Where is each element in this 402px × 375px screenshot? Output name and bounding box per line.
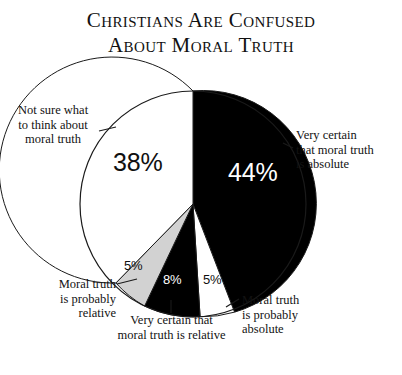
pie-label-very-certain-absolute-line-2: that moral truth	[296, 143, 374, 158]
slice-value-very-certain-absolute: 44%	[228, 158, 277, 187]
slice-value-not-sure: 38%	[113, 148, 162, 177]
pie-label-very-certain-relative: Very certain that moral truth is relativ…	[109, 313, 234, 342]
pie-label-moral-truth-probably-relative-line-1: Moral truth	[14, 277, 116, 292]
pie-label-not-sure: Not sure what to think about moral truth	[18, 103, 88, 147]
pie-label-moral-truth-probably-absolute-line-2: is probably	[242, 308, 299, 323]
pie-label-moral-truth-probably-absolute-line-1: Moral truth	[242, 293, 299, 308]
slice-value-moral-truth-probably-relative: 5%	[124, 258, 142, 273]
pie-label-moral-truth-probably-absolute-line-3: absolute	[242, 322, 299, 337]
pie-chart: 44% 38% 5% 8% 5% Not sure what to think …	[0, 0, 402, 375]
pie-label-very-certain-absolute: Very certain that moral truth is absolut…	[296, 128, 374, 172]
pie-label-moral-truth-probably-relative: Moral truth is probably relative	[14, 277, 116, 321]
pie-label-moral-truth-probably-relative-line-3: relative	[14, 306, 116, 321]
pie-label-not-sure-line-2: to think about	[18, 118, 88, 133]
pie-label-very-certain-relative-line-1: Very certain that	[109, 313, 234, 328]
pie-label-very-certain-relative-line-2: moral truth is relative	[109, 328, 234, 343]
pie-label-very-certain-absolute-line-1: Very certain	[296, 128, 374, 143]
pie-label-very-certain-absolute-line-3: is absolute	[296, 157, 374, 172]
pie-label-moral-truth-probably-relative-line-2: is probably	[14, 292, 116, 307]
pie-label-not-sure-line-1: Not sure what	[18, 103, 88, 118]
pie-label-moral-truth-probably-absolute: Moral truth is probably absolute	[242, 293, 299, 337]
slice-value-very-certain-relative: 8%	[163, 272, 181, 287]
slice-value-moral-truth-probably-absolute: 5%	[203, 272, 221, 287]
pie-label-not-sure-line-3: moral truth	[18, 132, 88, 147]
